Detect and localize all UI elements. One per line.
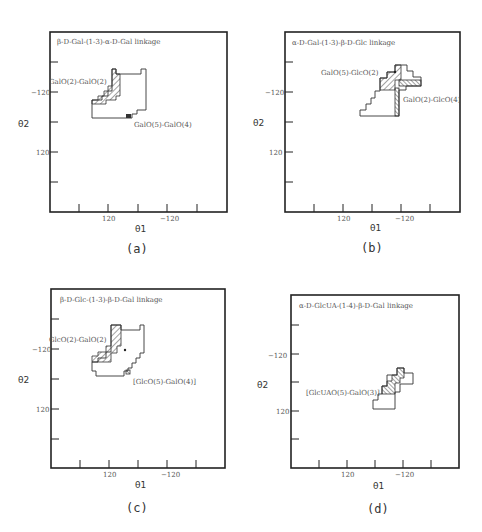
y-axis-label: θ2 (253, 118, 264, 128)
minimum-point (394, 71, 396, 73)
x-tick-label: −120 (160, 215, 179, 223)
y-tick-label: 120 (276, 408, 289, 416)
panel-a: β-D-Gal-(1-3)-α-D-Gal linkage GalO(2)-Ga… (0, 0, 241, 266)
x-tick-label: 120 (102, 215, 115, 223)
hatched-contact-region (399, 80, 421, 86)
y-axis-label: θ2 (257, 380, 268, 390)
x-tick-label: −120 (395, 215, 414, 223)
x-tick-label: −120 (395, 471, 414, 479)
y-tick-label: −120 (268, 352, 287, 360)
x-tick-label: 120 (337, 215, 350, 223)
panel-c-plot: β-D-Glc-(1-3)-β-D-Gal linkage GlcO(2)-Ga… (0, 266, 241, 532)
hatched-contact-region (92, 69, 120, 104)
hatched-contact-region (380, 65, 401, 90)
annotation: GlcO(2)-GalO(2) (49, 336, 107, 344)
panel-d-plot: α-D-GlcUA-(1-4)-β-D-Gal linkage [GlcUAO(… (241, 266, 482, 532)
contact-mark (126, 114, 131, 118)
y-tick-label: −120 (31, 89, 50, 97)
y-tick-label: −120 (265, 89, 284, 97)
panel-c: β-D-Glc-(1-3)-β-D-Gal linkage GlcO(2)-Ga… (0, 266, 241, 532)
x-tick-label: 120 (341, 471, 354, 479)
x-axis-label: θ1 (135, 480, 146, 490)
y-tick-label: −120 (32, 346, 51, 354)
annotation: [GlcO(5)-GalO(4)] (133, 378, 196, 386)
panel-title: β-D-Glc-(1-3)-β-D-Gal linkage (60, 296, 163, 304)
y-tick-label: 120 (36, 406, 49, 414)
panel-b: α-D-Gal-(1-3)-β-D-Glc linkage GalO(5)-Gl… (241, 0, 482, 266)
annotation: GalO(2)-GlcO(4) (403, 96, 461, 104)
panel-title: β-D-Gal-(1-3)-α-D-Gal linkage (57, 38, 160, 46)
panel-caption: (b) (361, 241, 383, 255)
panel-a-plot: β-D-Gal-(1-3)-α-D-Gal linkage GalO(2)-Ga… (0, 0, 241, 266)
panel-title: α-D-GlcUA-(1-4)-β-D-Gal linkage (299, 302, 413, 310)
panel-caption: (d) (367, 502, 389, 516)
x-tick-label: 120 (103, 471, 116, 479)
panel-caption: (a) (126, 242, 148, 256)
panel-d: α-D-GlcUA-(1-4)-β-D-Gal linkage [GlcUAO(… (241, 266, 482, 532)
x-axis-label: θ1 (135, 224, 146, 234)
panel-title: α-D-Gal-(1-3)-β-D-Glc linkage (292, 39, 395, 47)
hatched-contact-region (126, 370, 130, 374)
minimum-point (124, 349, 126, 351)
panel-b-plot: α-D-Gal-(1-3)-β-D-Glc linkage GalO(5)-Gl… (241, 0, 482, 266)
x-axis-label: θ1 (370, 223, 381, 233)
annotation: GalO(5)-GalO(4) (134, 121, 192, 129)
y-tick-label: 120 (36, 149, 49, 157)
x-tick-label: −120 (161, 471, 180, 479)
plot-frame (291, 295, 459, 468)
panel-caption: (c) (126, 501, 148, 515)
x-axis-label: θ1 (373, 481, 384, 491)
y-axis-label: θ2 (18, 375, 29, 385)
annotation: [GlcUAO(5)-GalO(3)] (306, 389, 380, 397)
hatched-contact-region (395, 88, 399, 116)
annotation: GalO(2)-GalO(2) (49, 78, 107, 86)
y-axis-label: θ2 (18, 119, 29, 129)
annotation: GalO(5)-GlcO(2) (321, 69, 379, 77)
plot-frame (285, 32, 460, 212)
y-tick-label: 120 (269, 149, 282, 157)
hatched-contact-region (382, 368, 404, 394)
